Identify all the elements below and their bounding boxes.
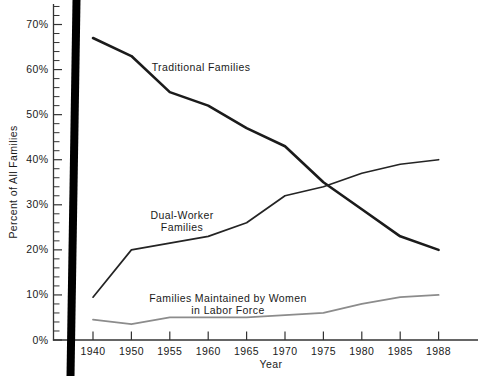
y-tick-label: 10% — [26, 288, 48, 300]
x-tick-label: 1975 — [311, 345, 336, 357]
y-tick-label: 0% — [33, 334, 49, 346]
series-annotation: Traditional Families — [152, 61, 251, 73]
x-tick-label: 1985 — [388, 345, 413, 357]
y-tick-label: 30% — [26, 198, 48, 210]
x-tick-label: 1980 — [349, 345, 374, 357]
y-tick-label: 60% — [26, 63, 48, 75]
x-tick-label: 1965 — [234, 345, 259, 357]
x-tick-label: 1955 — [157, 345, 182, 357]
x-tick-label: 1988 — [426, 345, 451, 357]
family-trends-figure: 0%10%20%30%40%50%60%70%19401950195519601… — [0, 0, 481, 376]
y-tick-label: 20% — [26, 243, 48, 255]
y-tick-label: 50% — [26, 108, 48, 120]
series-annotation: Families Maintained by Women — [149, 292, 306, 304]
left-black-bar — [67, 0, 81, 376]
y-tick-label: 40% — [26, 153, 48, 165]
series-annotation: Families — [161, 221, 203, 233]
family-trends-line-chart: 0%10%20%30%40%50%60%70%19401950195519601… — [0, 0, 481, 376]
x-tick-label: 1970 — [273, 345, 298, 357]
x-tick-label: 1940 — [81, 345, 106, 357]
x-tick-label: 1950 — [119, 345, 144, 357]
series-line — [93, 38, 439, 250]
series-annotation: Dual-Worker — [150, 209, 213, 221]
series-annotation: in Labor Force — [191, 304, 264, 316]
y-tick-label: 70% — [26, 18, 48, 30]
y-axis-title: Percent of All Families — [7, 102, 21, 262]
x-tick-label: 1960 — [196, 345, 221, 357]
x-axis-title: Year — [231, 358, 311, 370]
